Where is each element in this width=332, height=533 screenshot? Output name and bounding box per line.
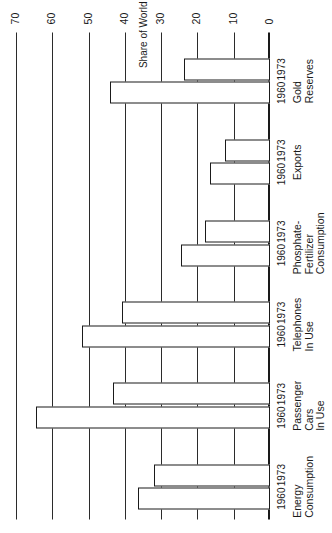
category-label-line: Gold xyxy=(292,58,304,102)
category-label-line: In Use xyxy=(304,297,316,351)
category-label: Phosphate-FertilizerConsumption xyxy=(292,212,327,274)
bar xyxy=(210,163,270,185)
year-label: 1973 xyxy=(276,464,287,486)
category-label-line: Exports xyxy=(292,144,304,180)
category-label: EnergyConsumption xyxy=(292,455,315,517)
bar xyxy=(110,81,270,103)
year-label: 1973 xyxy=(276,382,287,404)
gridline xyxy=(89,32,90,519)
value-tick-label: 20 xyxy=(190,12,202,24)
category-label-line: In Use xyxy=(315,380,327,430)
rotated-chart-canvas: 706050403020100 196019731960197319601973… xyxy=(0,0,332,533)
value-axis-title: Share of World Totals (Percent) xyxy=(138,0,149,68)
bar xyxy=(36,406,270,428)
value-tick-label: 50 xyxy=(82,12,94,24)
value-tick-label: 10 xyxy=(227,12,239,24)
category-label-line: Telephones xyxy=(292,297,304,351)
year-label: 1973 xyxy=(276,301,287,323)
category-label-line: Energy xyxy=(292,455,304,517)
chart-figure: 706050403020100 196019731960197319601973… xyxy=(0,0,332,533)
year-label: 1960 xyxy=(276,487,287,509)
year-label: 1973 xyxy=(276,139,287,161)
category-label: TelephonesIn Use xyxy=(292,297,315,351)
category-label-line: Reserves xyxy=(304,58,316,102)
bar xyxy=(225,139,270,161)
year-label: 1973 xyxy=(276,220,287,242)
year-label: 1960 xyxy=(276,162,287,184)
bar xyxy=(184,58,270,80)
value-tick-label: 70 xyxy=(9,12,21,24)
bar xyxy=(205,220,270,242)
bar xyxy=(181,244,270,266)
year-label: 1960 xyxy=(276,406,287,428)
gridline xyxy=(52,32,53,519)
category-label: Exports xyxy=(292,144,304,180)
value-axis-baseline xyxy=(268,32,270,519)
category-label: GoldReserves xyxy=(292,58,315,102)
category-label-line: Passenger xyxy=(292,380,304,430)
value-tick-label: 30 xyxy=(154,12,166,24)
bar xyxy=(82,325,270,347)
year-label: 1960 xyxy=(276,325,287,347)
gridline xyxy=(161,32,162,519)
category-label-line: Phosphate- xyxy=(292,212,304,274)
category-label-line: Consumption xyxy=(315,212,327,274)
bar xyxy=(154,464,270,486)
value-tick-label: 40 xyxy=(118,12,130,24)
gridline xyxy=(16,32,17,519)
gridline xyxy=(234,32,235,519)
gridline xyxy=(197,32,198,519)
plot-wrapper: 706050403020100 196019731960197319601973… xyxy=(0,0,332,533)
year-label: 1960 xyxy=(276,244,287,266)
year-label: 1973 xyxy=(276,58,287,80)
year-label: 1960 xyxy=(276,81,287,103)
plot-area xyxy=(16,32,270,519)
category-label: PassengerCarsIn Use xyxy=(292,380,327,430)
value-tick-label: 0 xyxy=(263,18,275,24)
bar xyxy=(138,487,270,509)
bar xyxy=(122,301,270,323)
bar xyxy=(113,383,270,405)
gridline xyxy=(125,32,126,519)
category-label-line: Consumption xyxy=(304,455,316,517)
value-tick-label: 60 xyxy=(45,12,57,24)
